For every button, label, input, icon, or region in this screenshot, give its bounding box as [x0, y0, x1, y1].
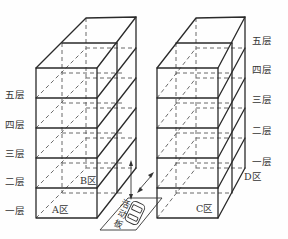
left-building [36, 17, 136, 218]
parking-structure-diagram: 五层 四层 三层 二层 一层 五层 四层 三层 二层 一层 A区 B区 C区 D… [0, 0, 288, 239]
right-floor-label-3: 三层 [252, 94, 272, 105]
movable-platform [100, 160, 162, 230]
right-floor-label-2: 二层 [252, 125, 272, 136]
right-floor-label-1: 一层 [252, 156, 272, 167]
left-floor-label-5: 五层 [5, 89, 25, 100]
zone-label-d: D区 [244, 171, 262, 182]
right-building [157, 17, 245, 218]
travel-arrow-icon [137, 172, 154, 193]
zone-label-b: B区 [80, 175, 97, 186]
right-floor-label-4: 四层 [252, 64, 272, 75]
diagram-svg: 五层 四层 三层 二层 一层 五层 四层 三层 二层 一层 A区 B区 C区 D… [0, 0, 288, 239]
right-visible-edges [157, 17, 245, 218]
left-floor-label-1: 一层 [5, 205, 25, 216]
right-floor-labels: 五层 四层 三层 二层 一层 [252, 35, 272, 167]
left-floor-labels: 五层 四层 三层 二层 一层 [5, 89, 25, 216]
left-floor-label-4: 四层 [5, 119, 25, 130]
left-floor-label-3: 三层 [5, 148, 25, 159]
zone-label-a: A区 [51, 204, 69, 215]
left-floor-label-2: 二层 [5, 176, 25, 187]
zone-labels: A区 B区 C区 D区 [51, 171, 262, 215]
lift-arrow-icon [129, 160, 133, 200]
right-floor-label-5: 五层 [252, 35, 272, 46]
zone-label-c: C区 [196, 203, 213, 214]
